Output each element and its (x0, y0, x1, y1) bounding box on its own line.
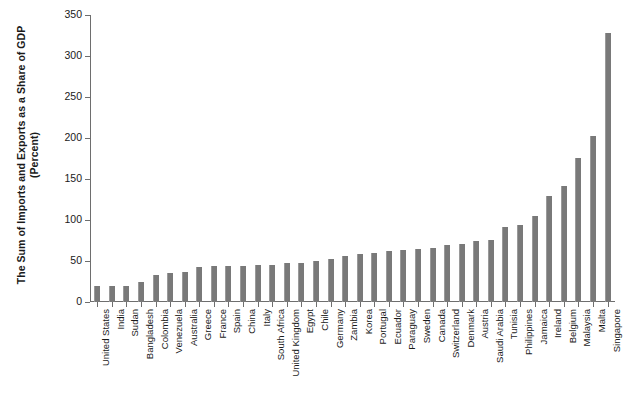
x-tick-slot (367, 302, 382, 308)
bar[interactable] (459, 244, 465, 302)
bar[interactable] (517, 225, 523, 302)
bar[interactable] (109, 286, 115, 302)
bar[interactable] (298, 263, 304, 302)
bar[interactable] (153, 275, 159, 302)
x-tick-slot (382, 302, 397, 308)
x-label-slot: Paraguay (396, 309, 411, 397)
x-tick-slot (294, 302, 309, 308)
x-label-slot: Egypt (294, 309, 309, 397)
bar[interactable] (400, 250, 406, 302)
bar[interactable] (444, 245, 450, 302)
x-tick-slot (119, 302, 134, 308)
bar[interactable] (211, 266, 217, 302)
bar-slot (571, 15, 586, 302)
bar-slot (105, 15, 120, 302)
y-axis-tick-label: 300 (64, 49, 82, 61)
y-axis-title-line1: The Sum of Imports and Exports as a Shar… (15, 26, 27, 285)
x-label-slot: Portugal (367, 309, 382, 397)
bar[interactable] (196, 267, 202, 302)
x-label-slot: Korea (352, 309, 367, 397)
x-tick-slot (105, 302, 120, 308)
bar[interactable] (371, 253, 377, 302)
x-axis-tick (403, 302, 404, 307)
bar-slot (250, 15, 265, 302)
x-axis-tick (287, 302, 288, 307)
bar[interactable] (225, 266, 231, 302)
bar-slot (557, 15, 572, 302)
bar-slot (352, 15, 367, 302)
x-label-slot: Germany (323, 309, 338, 397)
y-axis-tick-label: 0 (76, 295, 82, 307)
bar[interactable] (561, 186, 567, 302)
bar[interactable] (546, 196, 552, 302)
y-axis-tick-label: 350 (64, 8, 82, 20)
y-axis-tick-label: 50 (70, 254, 82, 266)
x-axis-tick (549, 302, 550, 307)
x-axis-tick (156, 302, 157, 307)
bar[interactable] (284, 263, 290, 302)
bar[interactable] (430, 248, 436, 302)
x-axis-tick (185, 302, 186, 307)
bar-slot (542, 15, 557, 302)
x-tick-slot (134, 302, 149, 308)
bar[interactable] (415, 249, 421, 302)
bar[interactable] (328, 259, 334, 302)
bar[interactable] (575, 158, 581, 302)
x-label-slot: Ecuador (382, 309, 397, 397)
x-axis-tick (374, 302, 375, 307)
y-axis-tick-label: 200 (64, 131, 82, 143)
bar[interactable] (473, 241, 479, 303)
x-tick-slot (542, 302, 557, 308)
x-axis-tick (447, 302, 448, 307)
x-tick-slot (265, 302, 280, 308)
bar[interactable] (255, 265, 261, 302)
x-axis-tick (228, 302, 229, 307)
x-axis-tick (316, 302, 317, 307)
x-tick-slot (221, 302, 236, 308)
bar[interactable] (488, 240, 494, 302)
x-tick-slot (469, 302, 484, 308)
bar[interactable] (94, 286, 100, 302)
bar[interactable] (313, 261, 319, 302)
chart-figure: The Sum of Imports and Exports as a Shar… (0, 0, 625, 399)
x-label-slot: Singapore (600, 309, 615, 397)
bar[interactable] (269, 265, 275, 302)
bar-slot (498, 15, 513, 302)
y-axis-title-container: The Sum of Imports and Exports as a Shar… (0, 0, 56, 310)
x-label-slot: France (207, 309, 222, 397)
bar[interactable] (240, 266, 246, 302)
bar[interactable] (138, 282, 144, 303)
x-label-slot: Venezuela (163, 309, 178, 397)
x-tick-slot (207, 302, 222, 308)
bar[interactable] (605, 33, 611, 302)
y-axis-tick-label: 250 (64, 90, 82, 102)
bar-slot (513, 15, 528, 302)
bar[interactable] (386, 251, 392, 302)
x-axis-tick (593, 302, 594, 307)
bar[interactable] (167, 273, 173, 302)
bar[interactable] (123, 286, 129, 302)
bar-slot (148, 15, 163, 302)
x-axis-tick (112, 302, 113, 307)
bar[interactable] (532, 216, 538, 302)
x-label-slot: Greece (192, 309, 207, 397)
bar[interactable] (502, 227, 508, 302)
x-tick-slot (352, 302, 367, 308)
x-tick-slot (323, 302, 338, 308)
bar[interactable] (590, 136, 596, 302)
bar-slot (134, 15, 149, 302)
x-axis-tick-label: Singapore (612, 309, 622, 352)
x-tick-slot (280, 302, 295, 308)
x-tick-slot (192, 302, 207, 308)
bar[interactable] (182, 272, 188, 302)
bar[interactable] (342, 256, 348, 302)
x-label-slot: Belgium (557, 309, 572, 397)
x-label-slot: Spain (221, 309, 236, 397)
bar-slot (367, 15, 382, 302)
x-axis-labels: United StatesIndiaSudanBangladeshColombi… (90, 309, 615, 397)
x-tick-slot (571, 302, 586, 308)
x-axis-tick (170, 302, 171, 307)
bar[interactable] (357, 254, 363, 302)
bar-slot (265, 15, 280, 302)
bar-slot (119, 15, 134, 302)
